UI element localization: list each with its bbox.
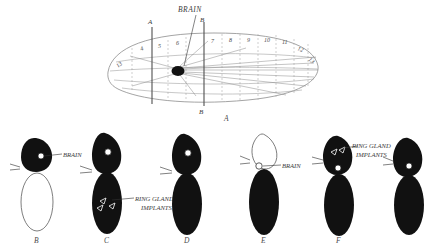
specimen-f-body	[324, 174, 354, 236]
specimen-unlabeled-brain-spot	[406, 163, 412, 169]
specimen-unlabeled-bristles	[383, 157, 393, 165]
specimen-b: BRAIN B	[10, 138, 82, 245]
specimen-c-body	[92, 172, 122, 234]
specimen-f-brain-spot	[335, 165, 341, 171]
specimen-d-body	[172, 173, 202, 235]
specimen-label-f: F	[335, 236, 341, 245]
figure-root: 13 4 5 6 7 8 9 10 11 12 13 BRAIN A B B A	[0, 0, 429, 251]
specimen-e-brain-label: BRAIN	[282, 162, 301, 169]
specimen-b-brain-spot	[38, 153, 44, 159]
specimen-e-body	[249, 169, 279, 235]
specimen-e: BRAIN E	[240, 134, 301, 245]
specimen-e-brain-spot	[256, 163, 262, 169]
specimen-row: BRAIN B RING GLAND IMPLANTS C	[0, 0, 429, 251]
specimen-d-bristles	[160, 167, 172, 174]
specimen-f: RING GLAND IMPLANTS F	[312, 136, 391, 245]
specimen-b-body	[21, 173, 53, 231]
specimen-d-brain-spot	[185, 150, 191, 156]
specimen-d: D	[160, 134, 202, 245]
specimen-unlabeled-head	[393, 138, 422, 177]
specimen-b-brain-label: BRAIN	[63, 151, 82, 158]
specimen-f-ring-gland-label-line1: RING GLAND	[351, 142, 391, 149]
specimen-label-b: B	[34, 236, 39, 245]
specimen-label-d: D	[183, 236, 190, 245]
specimen-c-ring-gland-label-line1: RING GLAND	[134, 195, 174, 202]
specimen-e-bristles	[240, 156, 250, 164]
specimen-label-e: E	[260, 236, 266, 245]
specimen-e-head	[252, 134, 277, 169]
specimen-f-ring-gland-label-line2: IMPLANTS	[355, 151, 387, 158]
specimen-unlabeled-body	[394, 175, 424, 235]
specimen-b-head	[21, 138, 52, 172]
specimen-unlabeled	[383, 138, 424, 235]
specimen-c-brain-spot	[105, 149, 111, 155]
specimen-label-c: C	[104, 236, 110, 245]
specimen-c-bristles	[80, 166, 92, 173]
specimen-c: RING GLAND IMPLANTS C	[80, 133, 174, 245]
specimen-f-bristles	[312, 157, 323, 164]
specimen-b-bristles	[10, 164, 20, 170]
specimen-c-ring-gland-label-line2: IMPLANTS	[140, 204, 172, 211]
